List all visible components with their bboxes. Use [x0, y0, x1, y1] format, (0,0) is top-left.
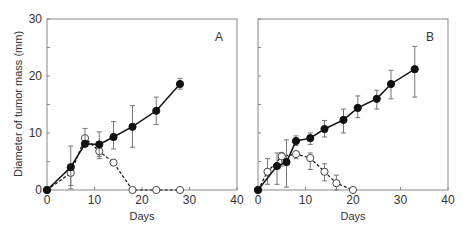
figure: 0102030400102030DaysA 010203040DaysB Dia… [0, 0, 463, 230]
open-circle-marker [110, 159, 117, 166]
panel-a: 0102030400102030DaysA [29, 12, 244, 222]
x-tick-label: 20 [135, 193, 149, 207]
open-circle-marker [307, 154, 314, 161]
x-tick-label: 30 [183, 193, 197, 207]
x-tick-label: 0 [44, 193, 51, 207]
y-axis-label: Diameter of tumor mass (mm) [12, 31, 24, 177]
open-circle-marker [321, 168, 328, 175]
filled-circle-marker [81, 140, 88, 147]
filled-circle-marker [96, 141, 103, 148]
filled-circle-marker [307, 135, 314, 142]
filled-circle-marker [254, 186, 261, 193]
open-circle-marker [292, 150, 299, 157]
filled-circle-marker [43, 186, 50, 193]
filled-circle-marker [153, 107, 160, 114]
x-tick-label: 10 [299, 193, 313, 207]
filled-circle-marker [411, 66, 418, 73]
x-tick-label: 10 [88, 193, 102, 207]
filled-circle-marker [387, 80, 394, 87]
open-circle-marker [153, 186, 160, 193]
x-axis-label: Days [129, 210, 155, 222]
filled-circle-marker [354, 104, 361, 111]
filled-circle-marker [110, 133, 117, 140]
y-tick-label: 20 [29, 69, 43, 83]
filled-circle-marker [321, 125, 328, 132]
panel-label: A [215, 30, 223, 44]
filled-circle-marker [340, 116, 347, 123]
y-tick-label: 30 [29, 12, 43, 26]
filled-circle-marker [67, 164, 74, 171]
y-tick-label: 0 [35, 183, 42, 197]
x-tick-label: 40 [230, 193, 244, 207]
x-axis-label: Days [340, 210, 366, 222]
panel-b: 010203040DaysB [254, 19, 455, 222]
filled-circle-marker [292, 137, 299, 144]
open-circle-marker [176, 186, 183, 193]
open-circle-marker [333, 180, 340, 187]
panel-label: B [426, 30, 434, 44]
open-circle-marker [129, 186, 136, 193]
y-tick-label: 10 [29, 126, 43, 140]
x-tick-label: 20 [346, 193, 360, 207]
filled-circle-marker [283, 158, 290, 165]
filled-circle-marker [373, 95, 380, 102]
filled-circle-marker [176, 80, 183, 87]
filled-circle-marker [129, 123, 136, 130]
plot-frame [47, 19, 237, 190]
x-tick-label: 30 [394, 193, 408, 207]
x-tick-label: 0 [255, 193, 262, 207]
x-tick-label: 40 [441, 193, 455, 207]
open-circle-marker [349, 186, 356, 193]
filled-circle-marker [273, 162, 280, 169]
